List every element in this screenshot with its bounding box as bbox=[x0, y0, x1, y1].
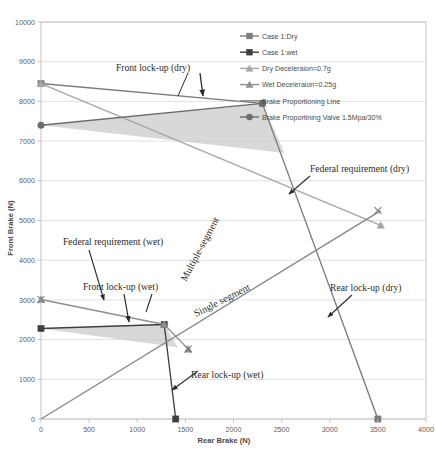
y-tick-label-7000: 7000 bbox=[19, 137, 35, 146]
x-tick-label-4000: 4000 bbox=[418, 425, 434, 434]
legend-label-1: Case 1:wet bbox=[262, 49, 298, 57]
y-tick-label-10000: 10000 bbox=[15, 18, 35, 27]
series-1-point-2 bbox=[173, 416, 179, 422]
y-tick-label-6000: 6000 bbox=[19, 176, 35, 185]
legend-label-5: Brake Proportining Valve 1.5Mpa/30% bbox=[262, 114, 382, 122]
y-tick-label-5000: 5000 bbox=[19, 216, 35, 225]
y-tick-label-3000: 3000 bbox=[19, 296, 35, 305]
y-tick-label-9000: 9000 bbox=[19, 57, 35, 66]
annotation-rear-lockup-wet: Rear lock-up (wet) bbox=[191, 369, 263, 381]
annotation-rear-lockup-dry: Rear lock-up (dry) bbox=[330, 282, 401, 294]
legend-label-3: Wet Deceleraion=0.25g bbox=[262, 81, 336, 89]
x-tick-label-1500: 1500 bbox=[177, 425, 193, 434]
legend-swatch-marker-1 bbox=[247, 49, 253, 55]
x-tick-label-1000: 1000 bbox=[129, 425, 145, 434]
y-tick-label-4000: 4000 bbox=[19, 256, 35, 265]
legend-swatch-marker-5 bbox=[246, 114, 252, 120]
x-tick-label-3000: 3000 bbox=[322, 425, 338, 434]
legend-label-2: Dry Deceleraion=0.7g bbox=[262, 65, 331, 73]
x-tick-label-0: 0 bbox=[39, 425, 43, 434]
annotation-federal-requirement-wet: Federal requirement (wet) bbox=[63, 236, 163, 248]
legend-item-5[interactable]: Brake Proportining Valve 1.5Mpa/30% bbox=[240, 114, 382, 122]
chart-container: 05001000150020002500300035004000 0100020… bbox=[0, 0, 436, 460]
legend-label-0: Case 1:Dry bbox=[262, 33, 298, 41]
x-tick-label-3500: 3500 bbox=[370, 425, 386, 434]
y-tick-label-0: 0 bbox=[31, 415, 35, 424]
x-tick-label-500: 500 bbox=[83, 425, 95, 434]
x-tick-label-2500: 2500 bbox=[274, 425, 290, 434]
y-tick-label-2000: 2000 bbox=[19, 335, 35, 344]
x-tick-label-2000: 2000 bbox=[226, 425, 242, 434]
y-tick-label-1000: 1000 bbox=[19, 375, 35, 384]
series-5-point-0 bbox=[38, 122, 45, 129]
annotation-federal-requirement-dry: Federal requirement (dry) bbox=[310, 163, 409, 175]
y-axis-title: Front Brake (N) bbox=[6, 200, 15, 256]
annotation-front-lockup-wet: Front lock-up (wet) bbox=[83, 281, 158, 293]
x-axis-title: Rear Brake (N) bbox=[198, 436, 251, 445]
legend-label-4: Brake Proportioning Line bbox=[262, 98, 340, 106]
series-1-point-0 bbox=[38, 325, 44, 331]
brake-force-distribution-chart: 05001000150020002500300035004000 0100020… bbox=[0, 0, 436, 460]
annotation-front-lockup-dry: Front lock-up (dry) bbox=[116, 62, 190, 74]
chart-background bbox=[0, 0, 436, 460]
y-tick-label-8000: 8000 bbox=[19, 97, 35, 106]
legend-swatch-marker-0 bbox=[247, 33, 253, 39]
